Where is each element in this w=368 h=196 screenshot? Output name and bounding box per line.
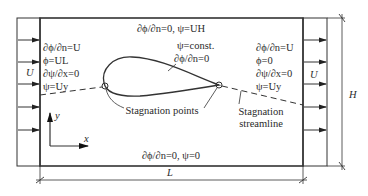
- dimension-label-H: H: [348, 89, 358, 100]
- inlet-condition-2: ϕ=UL: [43, 55, 68, 66]
- outlet-arrows: [304, 40, 326, 130]
- outlet-strip: U: [303, 18, 327, 166]
- stagnation-leader-left: [106, 89, 124, 108]
- inlet-velocity-label: U: [26, 67, 35, 78]
- bottom-boundary-condition: ∂ϕ/∂n=0, ψ=0: [142, 150, 200, 161]
- airfoil-condition-psi: ψ=const.: [177, 40, 214, 51]
- stagnation-streamline-label-line1: Stagnation: [239, 106, 285, 117]
- outlet-condition-2: ϕ=0: [256, 55, 273, 66]
- stagnation-streamline-leader: [239, 91, 241, 104]
- stagnation-leader-right: [204, 88, 217, 108]
- dimension-height: H: [327, 14, 358, 170]
- y-axis-label: y: [54, 110, 60, 121]
- flow-domain-diagram: U U ∂ϕ/∂n=0, ψ=UH ∂ϕ/∂n=0, ψ=0 ∂ϕ/∂n=U ϕ…: [0, 0, 368, 196]
- dimension-width: L: [36, 166, 307, 184]
- inlet-arrows: [18, 40, 39, 130]
- stagnation-streamline-label-line2: streamline: [239, 118, 283, 129]
- dimension-label-L: L: [166, 167, 173, 178]
- inlet-condition-3: ∂ψ/∂x=0: [43, 68, 79, 79]
- outlet-conditions: ∂ϕ/∂n=U ϕ=0 ∂ψ/∂x=0 ψ=Uy: [256, 42, 294, 92]
- outlet-condition-4: ψ=Uy: [256, 81, 282, 92]
- top-boundary-condition: ∂ϕ/∂n=0, ψ=UH: [137, 23, 206, 34]
- inlet-condition-1: ∂ϕ/∂n=U: [43, 42, 81, 53]
- inlet-conditions: ∂ϕ/∂n=U ϕ=UL ∂ψ/∂x=0 ψ=Uy: [43, 42, 81, 92]
- x-axis-label: x: [83, 133, 89, 144]
- coordinate-axes: y x: [50, 110, 89, 146]
- outlet-condition-1: ∂ϕ/∂n=U: [256, 42, 294, 53]
- outlet-velocity-label: U: [310, 69, 319, 80]
- airfoil-condition-phi: ∂ϕ/∂n=0: [174, 53, 209, 64]
- stagnation-points-label: Stagnation points: [125, 105, 198, 116]
- inlet-strip: U: [17, 18, 40, 166]
- outlet-condition-3: ∂ψ/∂x=0: [256, 68, 292, 79]
- inlet-condition-4: ψ=Uy: [43, 81, 69, 92]
